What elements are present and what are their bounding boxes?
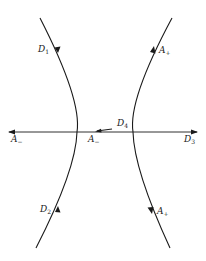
label-d4: D4	[117, 119, 128, 129]
label-d2: D2	[40, 205, 51, 215]
phase-diagram	[0, 0, 206, 261]
label-a-minus-left: A−	[11, 135, 23, 145]
label-a-plus-bottom: A+	[157, 207, 169, 217]
arrow-a-plus-top-icon	[150, 46, 156, 54]
label-d3: D3	[184, 135, 195, 145]
label-a-plus-top: A+	[159, 46, 171, 56]
label-a-minus-center: A−	[88, 135, 100, 145]
label-d1: D1	[38, 45, 49, 55]
arrow-a-plus-bottom-icon	[148, 207, 154, 214]
arrow-right-icon	[191, 130, 198, 135]
